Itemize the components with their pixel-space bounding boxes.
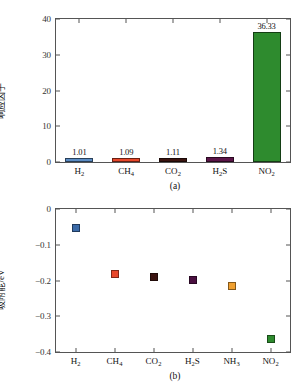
bar-h2: 1.01: [65, 158, 93, 162]
x-tick-label-nh3: NH3: [223, 352, 239, 366]
y-tick-label: −0.1: [35, 240, 56, 250]
y-tick-mark-right: [286, 316, 290, 317]
y-tick-mark-right: [286, 19, 290, 20]
plot-area-a: 010203040H21.01CH41.09CO21.11H2S1.34NO23…: [55, 18, 291, 163]
x-tick-label-h2: H2: [71, 352, 81, 366]
y-tick-mark-right: [286, 126, 290, 127]
y-tick-mark: [56, 126, 60, 127]
bar-value-label: 1.09: [119, 147, 133, 157]
y-tick-label: 10: [42, 121, 56, 131]
x-tick-mark-top: [231, 209, 232, 213]
x-tick-label-no2: NO2: [258, 162, 274, 176]
y-tick-label: 0: [47, 204, 56, 214]
panel-caption-b: (b): [22, 371, 306, 381]
x-tick-label-ch4: CH4: [118, 162, 134, 176]
y-tick-mark-right: [286, 54, 290, 55]
y-tick-label: 20: [42, 86, 56, 96]
x-tick-label-h2s: H2S: [212, 162, 227, 176]
y-tick-mark: [56, 19, 60, 20]
bar-value-label: 1.11: [166, 147, 180, 157]
y-tick-mark-right: [286, 162, 290, 163]
y-tick-label: 0: [47, 157, 56, 167]
data-point-nh3: [228, 282, 236, 290]
data-point-ch4: [111, 270, 119, 278]
x-tick-label-co2: CO2: [146, 352, 162, 366]
y-tick-mark-right: [286, 244, 290, 245]
bar-no2: 36.33: [253, 32, 281, 162]
x-tick-mark-top: [126, 19, 127, 23]
x-tick-mark-top: [79, 19, 80, 23]
y-tick-mark: [56, 209, 60, 210]
data-point-h2: [72, 224, 80, 232]
x-tick-mark-top: [192, 209, 193, 213]
x-tick-mark-top: [219, 19, 220, 23]
y-tick-mark: [56, 352, 60, 353]
y-tick-mark-right: [286, 209, 290, 210]
x-tick-mark-top: [75, 209, 76, 213]
y-tick-mark: [56, 162, 60, 163]
y-axis-label-b: 吸附能/eV: [0, 240, 7, 340]
x-tick-mark-top: [270, 209, 271, 213]
bar-value-label: 1.34: [213, 146, 227, 156]
figure-container: 响应因子 010203040H21.01CH41.09CO21.11H2S1.3…: [0, 0, 306, 388]
x-tick-label-ch4: CH4: [107, 352, 123, 366]
y-tick-label: −0.3: [35, 311, 56, 321]
y-tick-mark: [56, 280, 60, 281]
y-tick-mark-right: [286, 280, 290, 281]
bar-value-label: 36.33: [258, 21, 276, 31]
data-point-no2: [267, 335, 275, 343]
x-tick-label-h2s: H2S: [185, 352, 200, 366]
x-tick-label-no2: NO2: [262, 352, 278, 366]
bar-value-label: 1.01: [72, 147, 86, 157]
y-tick-mark: [56, 316, 60, 317]
bar-ch4: 1.09: [112, 158, 140, 162]
data-point-co2: [150, 273, 158, 281]
x-tick-label-co2: CO2: [165, 162, 181, 176]
y-tick-label: 40: [42, 14, 56, 24]
chart-panel-b: 吸附能/eV 0−0.1−0.2−0.3−0.4H2CH4CO2H2SNH3NO…: [0, 190, 306, 388]
y-tick-mark: [56, 90, 60, 91]
chart-panel-a: 响应因子 010203040H21.01CH41.09CO21.11H2S1.3…: [0, 0, 306, 200]
data-point-h2s: [189, 276, 197, 284]
x-tick-mark-top: [153, 209, 154, 213]
y-axis-label-a: 响应因子: [0, 51, 7, 151]
y-tick-mark: [56, 54, 60, 55]
x-tick-mark-top: [173, 19, 174, 23]
y-tick-mark: [56, 244, 60, 245]
y-tick-label: −0.2: [35, 276, 56, 286]
bar-h2s: 1.34: [206, 157, 234, 162]
plot-area-b: 0−0.1−0.2−0.3−0.4H2CH4CO2H2SNH3NO2: [55, 208, 291, 353]
x-tick-label-h2: H2: [75, 162, 85, 176]
x-tick-mark-top: [114, 209, 115, 213]
y-tick-mark-right: [286, 352, 290, 353]
y-tick-label: −0.4: [35, 347, 56, 357]
bar-co2: 1.11: [159, 158, 187, 162]
y-tick-label: 30: [42, 50, 56, 60]
y-tick-mark-right: [286, 90, 290, 91]
